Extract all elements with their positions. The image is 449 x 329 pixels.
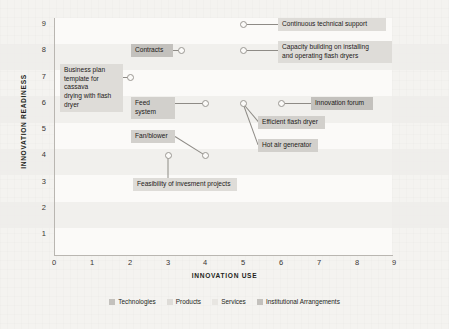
data-point-contracts[interactable] xyxy=(178,47,185,54)
y-tick-4: 4 xyxy=(32,150,46,159)
chart-figure: 0 1 2 3 4 5 6 7 8 9 9 8 7 6 5 4 3 2 1 IN… xyxy=(0,0,449,329)
y-axis-title: INNOVATION READINESS xyxy=(20,52,27,192)
data-point-fan-blower[interactable] xyxy=(202,152,209,159)
y-axis-line xyxy=(54,18,55,256)
data-point-business-plan[interactable] xyxy=(127,74,134,81)
x-tick-7: 7 xyxy=(311,258,327,267)
legend-label-institutional-arrangements: Institutional Arrangements xyxy=(266,298,340,305)
data-point-innovation-forum[interactable] xyxy=(278,100,285,107)
leader-line-innovation-forum xyxy=(285,103,311,104)
label-efficient-flash-dryer[interactable]: Efficient flash dryer xyxy=(258,116,325,129)
data-point-capacity-building[interactable] xyxy=(240,47,247,54)
label-capacity-building[interactable]: Capacity building on installing and oper… xyxy=(278,41,392,63)
y-tick-2: 2 xyxy=(32,203,46,212)
data-point-efficient-flash-dryer[interactable] xyxy=(240,100,247,107)
legend-swatch-technologies xyxy=(109,299,115,305)
label-feasibility[interactable]: Feasibility of invesment projects xyxy=(133,178,237,191)
legend-item-institutional-arrangements[interactable]: Institutional Arrangements xyxy=(257,298,340,305)
y-tick-8: 8 xyxy=(32,45,46,54)
leader-line-feed-system xyxy=(175,103,205,104)
y-tick-3: 3 xyxy=(32,177,46,186)
label-continuous-technical-support[interactable]: Continuous technical support xyxy=(278,18,386,31)
y-tick-7: 7 xyxy=(32,72,46,81)
x-tick-8: 8 xyxy=(349,258,365,267)
legend-swatch-institutional-arrangements xyxy=(257,299,263,305)
legend-label-services: Services xyxy=(221,298,246,305)
chart-legend: Technologies Products Services Instituti… xyxy=(0,298,449,305)
leader-line-capacity-building xyxy=(247,50,278,51)
x-axis-line xyxy=(54,255,393,256)
x-tick-9: 9 xyxy=(386,258,402,267)
label-contracts[interactable]: Contracts xyxy=(131,44,173,57)
x-tick-2: 2 xyxy=(122,258,138,267)
legend-item-products[interactable]: Products xyxy=(167,298,201,305)
legend-item-technologies[interactable]: Technologies xyxy=(109,298,156,305)
label-fan-blower[interactable]: Fan/blower xyxy=(131,130,175,143)
x-tick-5: 5 xyxy=(235,258,251,267)
leader-line-feasibility xyxy=(168,156,169,180)
x-tick-0: 0 xyxy=(46,258,62,267)
legend-swatch-services xyxy=(212,299,218,305)
label-innovation-forum[interactable]: Innovation forum xyxy=(311,97,373,110)
leader-line-continuous-technical-support xyxy=(247,24,278,25)
x-tick-1: 1 xyxy=(84,258,100,267)
legend-label-products: Products xyxy=(176,298,201,305)
y-tick-6: 6 xyxy=(32,98,46,107)
x-tick-3: 3 xyxy=(160,258,176,267)
data-point-feasibility[interactable] xyxy=(165,152,172,159)
y-tick-9: 9 xyxy=(32,19,46,28)
plot-band xyxy=(0,149,449,175)
legend-item-services[interactable]: Services xyxy=(212,298,246,305)
legend-label-technologies: Technologies xyxy=(118,298,155,305)
y-tick-5: 5 xyxy=(32,124,46,133)
label-hot-air-generator[interactable]: Hot air generator xyxy=(258,139,318,152)
plot-band xyxy=(0,202,449,228)
label-feed-system[interactable]: Feed system xyxy=(131,97,175,119)
y-tick-1: 1 xyxy=(32,229,46,238)
label-business-plan[interactable]: Business plan template for cassava dryin… xyxy=(60,64,123,112)
data-point-continuous-technical-support[interactable] xyxy=(240,21,247,28)
x-axis-title: INNOVATION USE xyxy=(0,272,449,279)
x-tick-4: 4 xyxy=(197,258,213,267)
legend-swatch-products xyxy=(167,299,173,305)
x-tick-6: 6 xyxy=(273,258,289,267)
data-point-feed-system[interactable] xyxy=(202,100,209,107)
